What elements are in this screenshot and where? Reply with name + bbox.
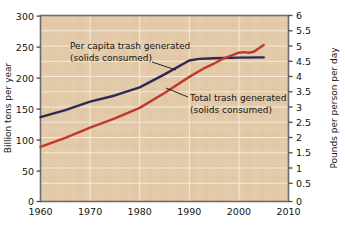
x-tick-label-2010: 2010 xyxy=(276,206,300,217)
x-tick-label-1960: 1960 xyxy=(28,206,52,217)
annotation-per-capita-line2: (solids consumed) xyxy=(70,53,152,63)
y-tick-label-250: 250 xyxy=(16,42,34,53)
y-tick-label-100: 100 xyxy=(16,135,34,146)
y-axis-title: Billion tons per year xyxy=(3,62,13,153)
annotation-total-line1: Total trash generated xyxy=(189,93,286,103)
annotation-per-capita-line1: Per capita trash generated xyxy=(70,41,190,51)
y2-tick-label-3-5: 3.5 xyxy=(296,86,311,97)
y2-tick-label-5: 5 xyxy=(296,41,302,52)
left-axis: 300 250 200 150 100 50 0 Billion tons pe… xyxy=(3,11,41,208)
x-tick-label-1980: 1980 xyxy=(128,206,152,217)
annotation-total-line2: (solids consumed) xyxy=(190,105,272,115)
y2-axis-title: Pounds per person per day xyxy=(329,47,339,169)
y-tick-label-300: 300 xyxy=(16,11,34,22)
y2-tick-label-0-5: 0.5 xyxy=(296,178,311,189)
y2-tick-label-1: 1 xyxy=(296,163,302,174)
trash-generation-line-chart: 300 250 200 150 100 50 0 Billion tons pe… xyxy=(0,0,345,228)
y2-tick-label-4-5: 4.5 xyxy=(296,56,311,67)
right-axis: 6 5.5 5 4.5 4 3.5 3 2.5 2 1.5 1 0.5 0 Po… xyxy=(289,10,340,207)
y2-tick-label-1-5: 1.5 xyxy=(296,147,311,158)
y2-tick-label-5-5: 5.5 xyxy=(296,25,311,36)
y2-tick-label-4: 4 xyxy=(296,71,302,82)
y-tick-label-200: 200 xyxy=(16,73,34,84)
x-tick-label-2000: 2000 xyxy=(227,206,251,217)
y-tick-label-150: 150 xyxy=(16,104,34,115)
y2-tick-label-2: 2 xyxy=(296,132,302,143)
x-tick-label-1970: 1970 xyxy=(78,206,102,217)
y2-tick-label-2-5: 2.5 xyxy=(296,117,311,128)
chart-container: 300 250 200 150 100 50 0 Billion tons pe… xyxy=(0,0,345,228)
y2-tick-label-6: 6 xyxy=(296,10,302,21)
y-tick-label-50: 50 xyxy=(22,166,34,177)
x-tick-label-1990: 1990 xyxy=(177,206,201,217)
x-axis: 1960 1970 1980 1990 2000 2010 xyxy=(28,206,300,217)
y2-tick-label-3: 3 xyxy=(296,102,302,113)
